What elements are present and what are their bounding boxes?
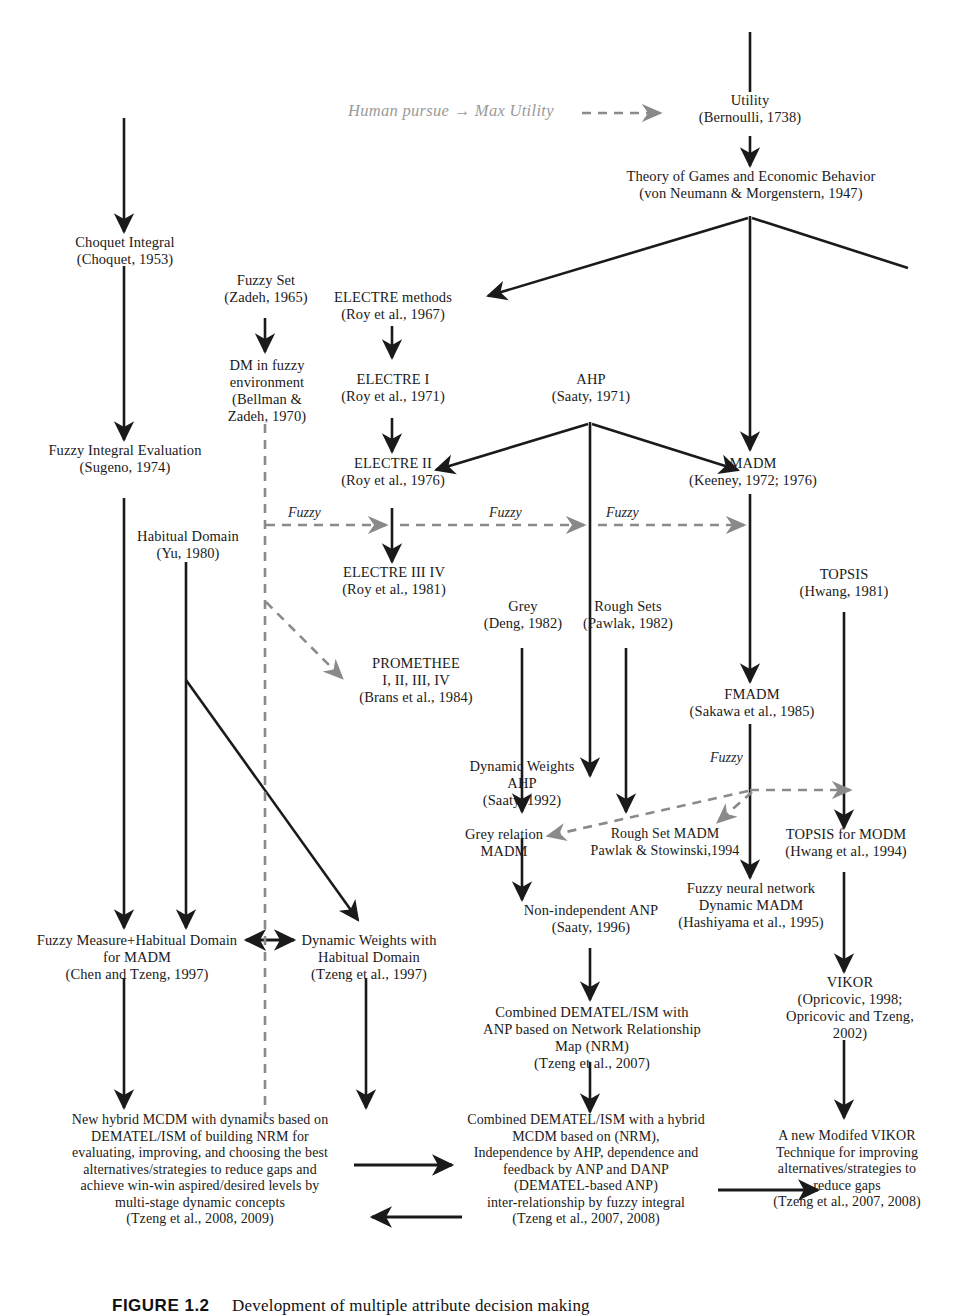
node-fuzzy-set: Fuzzy Set (Zadeh, 1965) — [196, 272, 336, 306]
node-promethee: PROMETHEE I, II, III, IV (Brans et al., … — [336, 655, 496, 706]
node-fmadm: FMADM (Sakawa et al., 1985) — [662, 686, 842, 720]
figure-caption-text: Development of multiple attribute decisi… — [232, 1296, 590, 1315]
banner-human-pursue: Human pursue → Max Utility — [348, 101, 554, 121]
figure-caption-label: FIGURE 1.2 — [112, 1296, 210, 1315]
node-choquet-integral: Choquet Integral (Choquet, 1953) — [40, 234, 210, 268]
node-electre-1: ELECTRE I (Roy et al., 1971) — [318, 371, 468, 405]
node-vikor: VIKOR (Opricovic, 1998; Opricovic and Tz… — [758, 974, 942, 1042]
node-fuzzy-measure-habitual-domain: Fuzzy Measure+Habitual Domain for MADM (… — [14, 932, 260, 983]
edge-label-fuzzy-2: Fuzzy — [486, 505, 525, 521]
node-utility: Utility (Bernoulli, 1738) — [660, 92, 840, 126]
edge-label-fuzzy-4: Fuzzy — [707, 750, 746, 766]
node-electre-3-4: ELECTRE III IV (Roy et al., 1981) — [318, 564, 470, 598]
node-theory-games: Theory of Games and Economic Behavior (v… — [592, 168, 910, 202]
figure-caption: FIGURE 1.2 Development of multiple attri… — [112, 1296, 590, 1316]
node-combined-hybrid-mcdm: Combined DEMATEL/ISM with a hybrid MCDM … — [452, 1112, 720, 1228]
node-topsis: TOPSIS (Hwang, 1981) — [762, 566, 926, 600]
node-grey-relation-madm: Grey relation MADM — [442, 826, 566, 860]
edge-label-fuzzy-3: Fuzzy — [603, 505, 642, 521]
node-fuzzy-integral-evaluation: Fuzzy Integral Evaluation (Sugeno, 1974) — [20, 442, 230, 476]
figure-canvas: Human pursue → Max Utility Fuzzy Fuzzy F… — [0, 0, 956, 1316]
node-modified-vikor: A new Modifed VIKOR Technique for improv… — [746, 1128, 948, 1211]
node-habitual-domain: Habitual Domain (Yu, 1980) — [112, 528, 264, 562]
node-ahp: AHP (Saaty, 1971) — [522, 371, 660, 405]
node-dynamic-weights-ahp: Dynamic Weights AHP (Saaty, 1992) — [452, 758, 592, 809]
node-electre-2: ELECTRE II (Roy et al., 1976) — [318, 455, 468, 489]
node-electre-methods: ELECTRE methods (Roy et al., 1967) — [318, 289, 468, 323]
node-rough-sets: Rough Sets (Pawlak, 1982) — [558, 598, 698, 632]
node-dm-fuzzy-environment: DM in fuzzy environment (Bellman & Zadeh… — [200, 357, 334, 425]
node-combined-nrm: Combined DEMATEL/ISM with ANP based on N… — [458, 1004, 726, 1072]
edge-label-fuzzy-1: Fuzzy — [285, 505, 324, 521]
node-dynamic-weights-habitual-domain: Dynamic Weights with Habitual Domain (Tz… — [286, 932, 452, 983]
node-new-hybrid-mcdm: New hybrid MCDM with dynamics based on D… — [42, 1112, 358, 1228]
node-rough-set-madm: Rough Set MADM Pawlak & Stowinski,1994 — [568, 826, 762, 859]
node-madm: MADM (Keeney, 1972; 1976) — [662, 455, 844, 489]
node-non-independent-anp: Non-independent ANP (Saaty, 1996) — [484, 902, 698, 936]
node-topsis-for-modm: TOPSIS for MODM (Hwang et al., 1994) — [756, 826, 936, 860]
